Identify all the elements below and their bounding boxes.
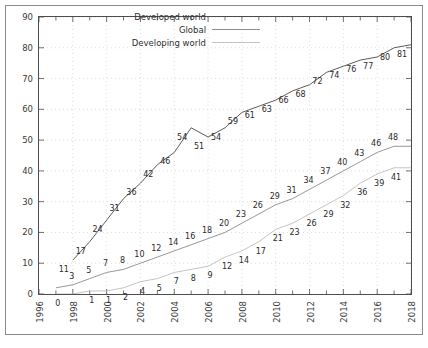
data-point-label: 74 (329, 71, 339, 80)
plot-area: 0102030405060708090 19961998200020022004… (38, 16, 412, 295)
data-point-label: 31 (109, 203, 119, 212)
y-axis-tick-label: 50 (22, 135, 33, 145)
y-axis-tick-label: 70 (22, 74, 33, 84)
data-point-label: 0 (55, 299, 60, 308)
data-point-label: 36 (357, 188, 367, 197)
y-axis-tick-label: 20 (22, 227, 33, 237)
data-point-label: 42 (143, 169, 153, 178)
y-axis-tick-label: 30 (22, 197, 33, 207)
data-point-label: 5 (86, 265, 91, 274)
y-axis-tick-label: 40 (22, 166, 33, 176)
data-point-label: 68 (295, 89, 305, 98)
x-axis-tick-label: 2016 (373, 301, 383, 323)
x-axis-tick-label: 2008 (238, 301, 248, 323)
chart-figure: 0102030405060708090 19961998200020022004… (0, 0, 428, 348)
data-point-label: 3 (69, 271, 74, 280)
data-point-label: 34 (303, 176, 313, 185)
data-point-label: 54 (211, 132, 221, 141)
legend-line-swatch (212, 29, 260, 30)
data-point-label: 17 (256, 246, 266, 255)
data-point-label: 5 (157, 283, 162, 292)
data-point-label: 51 (194, 142, 204, 151)
x-axis-tick-label: 2006 (204, 301, 214, 323)
x-axis-tick-label: 2004 (170, 301, 180, 323)
data-point-label: 37 (320, 167, 330, 176)
data-point-label: 17 (76, 246, 86, 255)
data-point-label: 80 (380, 52, 390, 61)
legend-label: Developed world (134, 12, 206, 22)
data-point-label: 43 (354, 148, 364, 157)
data-point-label: 76 (346, 65, 356, 74)
data-point-label: 23 (290, 228, 300, 237)
data-point-label: 72 (312, 77, 322, 86)
legend-item: Developing world (60, 36, 260, 49)
data-point-label: 26 (253, 200, 263, 209)
x-axis-tick-label: 2012 (306, 301, 316, 323)
data-point-label: 29 (270, 191, 280, 200)
y-axis-tick-label: 0 (28, 289, 33, 299)
data-point-label: 61 (245, 111, 255, 120)
legend-item: Developed world (60, 10, 260, 23)
legend-line-swatch (212, 42, 260, 43)
data-point-label: 77 (363, 62, 373, 71)
legend-label: Developing world (132, 38, 206, 48)
data-point-label: 48 (388, 133, 398, 142)
y-axis-tick-label: 80 (22, 43, 33, 53)
data-point-label: 2 (123, 292, 128, 301)
y-axis-tick-label: 10 (22, 258, 33, 268)
x-axis-tick-label: 2002 (136, 301, 146, 323)
data-point-label: 11 (59, 265, 69, 274)
data-point-label: 7 (103, 259, 108, 268)
chart-legend: Developed worldGlobalDeveloping world (60, 10, 260, 49)
data-point-label: 18 (202, 225, 212, 234)
data-point-label: 14 (168, 237, 178, 246)
data-point-label: 26 (306, 218, 316, 227)
data-point-label: 4 (140, 286, 145, 295)
data-point-label: 32 (340, 200, 350, 209)
x-axis-tick-label: 2018 (407, 301, 417, 323)
data-point-label: 12 (151, 244, 161, 253)
data-point-label: 81 (397, 49, 407, 58)
data-point-label: 59 (228, 117, 238, 126)
data-point-label: 66 (279, 95, 289, 104)
legend-line-swatch (212, 16, 260, 17)
legend-label: Global (179, 25, 206, 35)
data-point-label: 9 (208, 271, 213, 280)
data-point-label: 36 (126, 188, 136, 197)
data-point-label: 10 (134, 250, 144, 259)
x-axis-tick-label: 2014 (339, 301, 349, 323)
data-point-label: 23 (236, 210, 246, 219)
data-point-label: 63 (262, 105, 272, 114)
data-point-label: 41 (391, 172, 401, 181)
data-point-label: 7 (174, 277, 179, 286)
data-point-label: 21 (273, 234, 283, 243)
data-point-label: 24 (93, 225, 103, 234)
x-axis-tick-label: 1998 (69, 301, 79, 323)
data-point-label: 54 (177, 132, 187, 141)
data-point-label: 40 (337, 157, 347, 166)
data-point-label: 8 (191, 274, 196, 283)
data-point-label: 31 (287, 185, 297, 194)
data-point-label: 29 (323, 209, 333, 218)
data-point-label: 39 (374, 178, 384, 187)
y-axis-tick-label: 60 (22, 104, 33, 114)
x-axis-tick-label: 2010 (272, 301, 282, 323)
data-point-label: 1 (106, 295, 111, 304)
data-point-label: 46 (371, 139, 381, 148)
legend-item: Global (60, 23, 260, 36)
data-point-label: 12 (222, 262, 232, 271)
data-point-label: 46 (160, 157, 170, 166)
y-axis-tick-label: 90 (22, 12, 33, 22)
data-point-label: 1 (89, 295, 94, 304)
data-point-label: 16 (185, 231, 195, 240)
x-axis-tick-label: 1996 (35, 301, 45, 323)
data-point-label: 20 (219, 219, 229, 228)
data-point-label: 8 (120, 256, 125, 265)
data-point-label: 14 (239, 255, 249, 264)
